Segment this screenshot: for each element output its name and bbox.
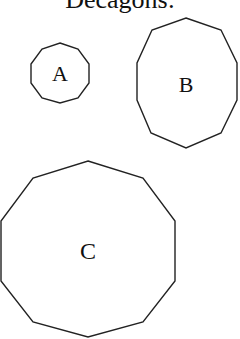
polygon-c-label: C [80,238,96,264]
polygon-a-label: A [52,61,68,86]
polygon-diagram: A B C [0,0,240,339]
polygon-b-label: B [179,72,194,97]
